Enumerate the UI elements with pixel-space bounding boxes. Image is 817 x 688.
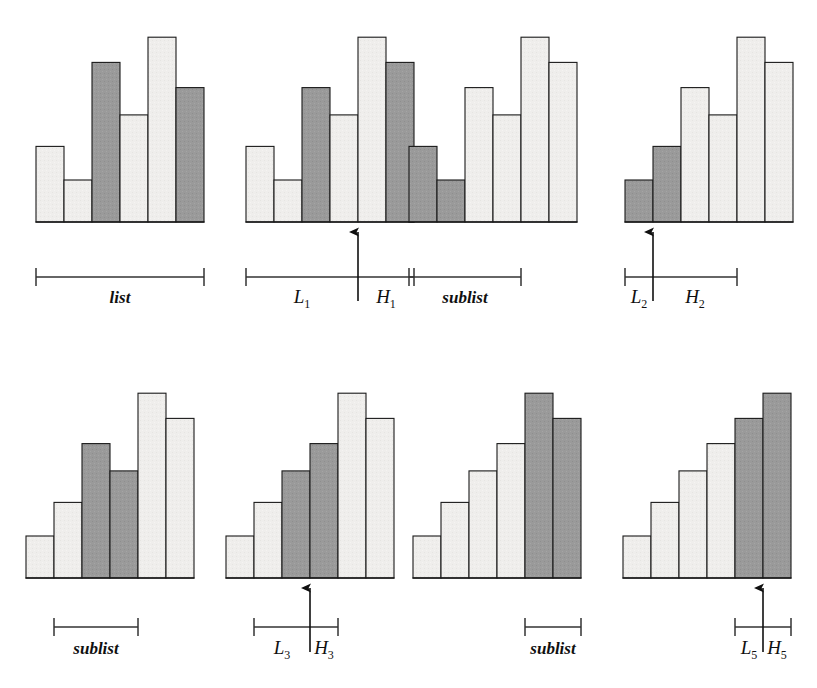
bound-label-high: H3	[313, 637, 334, 662]
bar-dark	[653, 146, 681, 222]
bracket-label-sublist: sublist	[529, 639, 577, 658]
bar-dark	[176, 88, 204, 222]
bar-light	[623, 536, 651, 578]
bar-light	[679, 471, 707, 578]
bracket-label-sublist: sublist	[441, 288, 489, 307]
bar-dark	[625, 180, 653, 222]
bar-dark	[110, 471, 138, 578]
bar-light	[254, 502, 282, 578]
bar-dark	[82, 444, 110, 578]
bar-group	[246, 37, 414, 222]
bar-light	[681, 88, 709, 222]
bar-dark	[553, 418, 581, 578]
span-bracket	[525, 618, 581, 636]
bar-light	[246, 146, 274, 222]
bar-light	[366, 418, 394, 578]
bar-group	[36, 37, 204, 222]
bar-light	[651, 502, 679, 578]
bar-light	[330, 115, 358, 222]
bar-light	[148, 37, 176, 222]
span-bracket	[36, 268, 204, 286]
bracket-label-sublist: sublist	[72, 639, 120, 658]
bar-dark	[409, 146, 437, 222]
bound-label-high: H5	[766, 637, 787, 662]
bar-dark	[282, 471, 310, 578]
span-bracket	[254, 618, 338, 636]
bar-light	[166, 418, 194, 578]
bar-light	[26, 536, 54, 578]
bar-group	[625, 37, 793, 222]
bar-group	[623, 393, 791, 578]
bar-light	[549, 62, 577, 222]
span-bracket	[54, 618, 138, 636]
span-bracket	[246, 268, 414, 286]
bar-light	[120, 115, 148, 222]
bar-dark	[310, 444, 338, 578]
chart-panel-3: sublist	[409, 37, 578, 307]
bar-dark	[763, 393, 791, 578]
bar-light	[469, 471, 497, 578]
bar-dark	[92, 62, 120, 222]
bar-light	[64, 180, 92, 222]
bar-light	[707, 444, 735, 578]
bar-light	[497, 444, 525, 578]
bar-light	[465, 88, 493, 222]
bracket-label-list: list	[110, 288, 132, 307]
bar-light	[493, 115, 521, 222]
chart-panel-8: L5H5	[623, 393, 792, 662]
bound-label-low: L3	[273, 637, 291, 662]
bar-dark	[525, 393, 553, 578]
bar-light	[737, 37, 765, 222]
chart-panel-4: L2H2	[625, 37, 794, 311]
chart-panel-7: sublist	[413, 393, 582, 658]
bar-group	[226, 393, 394, 578]
chart-panel-2: L1H1	[246, 37, 415, 311]
span-bracket	[409, 268, 521, 286]
bar-group	[409, 37, 577, 222]
bar-light	[36, 146, 64, 222]
bar-light	[338, 393, 366, 578]
bound-label-low: L5	[740, 637, 758, 662]
bar-dark	[735, 418, 763, 578]
bar-dark	[302, 88, 330, 222]
bar-light	[521, 37, 549, 222]
bar-light	[226, 536, 254, 578]
chart-panel-6: L3H3	[226, 393, 395, 662]
bar-light	[274, 180, 302, 222]
bar-light	[765, 62, 793, 222]
bound-label-high: H1	[375, 286, 396, 311]
span-bracket	[625, 268, 737, 286]
bar-light	[54, 502, 82, 578]
chart-panel-1: list	[36, 37, 205, 307]
bar-group	[26, 393, 194, 578]
bar-chart-panels-svg: listL1H1sublistL2H2sublistL3H3sublistL5H…	[0, 0, 817, 688]
bound-label-low: L2	[630, 286, 648, 311]
bar-dark	[437, 180, 465, 222]
bar-light	[358, 37, 386, 222]
bound-label-low: L1	[293, 286, 311, 311]
bar-light	[709, 115, 737, 222]
bar-light	[138, 393, 166, 578]
figure-canvas: listL1H1sublistL2H2sublistL3H3sublistL5H…	[0, 0, 817, 688]
bar-light	[441, 502, 469, 578]
bound-label-high: H2	[684, 286, 705, 311]
bar-group	[413, 393, 581, 578]
bar-light	[413, 536, 441, 578]
chart-panel-5: sublist	[26, 393, 195, 658]
